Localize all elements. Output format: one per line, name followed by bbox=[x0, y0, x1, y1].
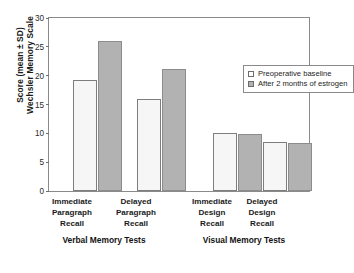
y-tick-20: 20 bbox=[35, 71, 49, 80]
bar-estrogen-immediate-design-recall bbox=[238, 134, 262, 191]
bar-group-delayed-design-recall bbox=[263, 18, 312, 191]
x-label-line: Design bbox=[224, 207, 300, 218]
y-tick-5: 5 bbox=[39, 158, 49, 167]
legend-item-preoperative-baseline: Preoperative baseline bbox=[248, 69, 348, 79]
y-tick-0: 0 bbox=[39, 187, 49, 196]
bar-estrogen-delayed-design-recall bbox=[288, 143, 312, 191]
x-label-line: Recall bbox=[224, 218, 300, 229]
x-label-delayed-design-recall: Delayed Design Recall bbox=[224, 196, 300, 230]
x-label-line: Recall bbox=[98, 218, 174, 229]
bar-estrogen-delayed-paragraph-recall bbox=[162, 69, 186, 192]
x-group-label-visual-memory-tests: Visual Memory Tests bbox=[174, 235, 314, 245]
bar-group-immediate-design-recall bbox=[213, 18, 262, 191]
legend-item-after-estrogen: After 2 months of estrogen bbox=[248, 79, 348, 89]
legend-swatch-preoperative-icon bbox=[248, 71, 254, 77]
bar-series-container bbox=[49, 18, 309, 191]
x-label-line: Delayed bbox=[224, 196, 300, 207]
x-label-line: Delayed bbox=[98, 196, 174, 207]
y-tick-25: 25 bbox=[35, 42, 49, 51]
legend-swatch-estrogen-icon bbox=[248, 81, 254, 87]
legend-label-preoperative-baseline: Preoperative baseline bbox=[258, 69, 331, 79]
y-tick-30: 30 bbox=[35, 14, 49, 23]
legend-label-after-estrogen: After 2 months of estrogen bbox=[258, 79, 348, 89]
bar-preoperative-immediate-paragraph-recall bbox=[73, 80, 97, 191]
bar-preoperative-delayed-paragraph-recall bbox=[137, 99, 161, 191]
y-tick-10: 10 bbox=[35, 129, 49, 138]
y-axis-title-line-1: Score (mean ± SD) bbox=[15, 27, 26, 103]
bar-preoperative-delayed-design-recall bbox=[263, 142, 287, 191]
bar-estrogen-immediate-paragraph-recall bbox=[98, 41, 122, 191]
bar-group-immediate-paragraph-recall bbox=[73, 18, 122, 191]
x-label-line: Paragraph bbox=[98, 207, 174, 218]
bar-preoperative-immediate-design-recall bbox=[213, 133, 237, 191]
x-label-delayed-paragraph-recall: Delayed Paragraph Recall bbox=[98, 196, 174, 230]
y-tick-15: 15 bbox=[35, 100, 49, 109]
bar-group-delayed-paragraph-recall bbox=[137, 18, 186, 191]
x-group-label-verbal-memory-tests: Verbal Memory Tests bbox=[34, 235, 174, 245]
chart-legend: Preoperative baseline After 2 months of … bbox=[243, 65, 354, 93]
plot-area: 30 25 20 15 10 5 0 bbox=[48, 17, 310, 192]
